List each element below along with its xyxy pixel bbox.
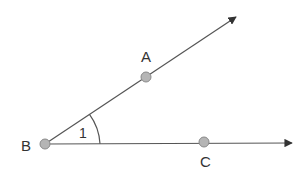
point-b [40, 139, 50, 149]
ray-bc [45, 143, 292, 144]
angle-diagram: 1 A B C [0, 0, 304, 181]
point-c [199, 137, 209, 147]
label-b: B [21, 137, 31, 154]
angle-arc [90, 114, 101, 143]
label-a: A [141, 48, 151, 65]
ray-ba [45, 17, 236, 144]
point-a [141, 72, 151, 82]
label-c: C [200, 153, 211, 170]
angle-label: 1 [79, 125, 87, 141]
